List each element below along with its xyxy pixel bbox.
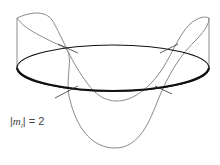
diagram-canvas bbox=[0, 0, 220, 165]
ring-wavefunction-diagram: |ml| = 2 bbox=[0, 0, 220, 165]
wave-back bbox=[17, 13, 209, 101]
label-variable: m bbox=[13, 115, 21, 127]
ring-front-thick bbox=[17, 68, 209, 91]
label-suffix: | = 2 bbox=[23, 115, 45, 127]
quantum-number-label: |ml| = 2 bbox=[10, 115, 44, 130]
